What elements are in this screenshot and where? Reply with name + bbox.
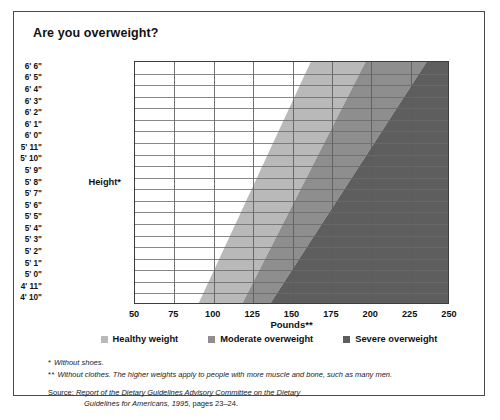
gridline-vertical xyxy=(253,62,254,303)
x-axis-tick-label: 75 xyxy=(153,309,193,319)
y-axis-tick-label: 6' 1" xyxy=(0,120,42,129)
gridline-horizontal xyxy=(135,166,448,167)
source-citation: Source: Report of the Dietary Guidelines… xyxy=(48,387,464,410)
y-axis-tick-label: 4' 11" xyxy=(0,282,42,291)
gridline-horizontal xyxy=(135,259,448,260)
footnote-text: Without clothes. The higher weights appl… xyxy=(57,370,392,379)
x-axis-tick-label: 50 xyxy=(114,309,154,319)
legend-swatch-icon xyxy=(101,336,108,343)
gridline-horizontal xyxy=(135,155,448,156)
y-axis-tick-label: 5' 5" xyxy=(0,212,42,221)
y-axis-tick-label: 5' 3" xyxy=(0,235,42,244)
footnote: ** Without clothes. The higher weights a… xyxy=(48,369,462,381)
gridline-vertical xyxy=(214,62,215,303)
weight-band-areas xyxy=(135,62,448,303)
source-label: Source: xyxy=(48,388,74,397)
y-axis-tick-label: 5' 2" xyxy=(0,247,42,256)
page-title: Are you overweight? xyxy=(33,26,159,40)
x-axis-title: Pounds** xyxy=(134,319,449,330)
y-axis-tick-label: 4' 10" xyxy=(0,293,42,302)
gridline-horizontal xyxy=(135,224,448,225)
x-axis-tick-label: 225 xyxy=(390,309,430,319)
gridline-horizontal xyxy=(135,270,448,271)
legend-item: Healthy weight xyxy=(101,334,179,344)
y-axis-tick-label: 5' 7" xyxy=(0,189,42,198)
gridline-vertical xyxy=(332,62,333,303)
footnote-text: Without shoes. xyxy=(54,358,104,367)
legend-label: Moderate overweight xyxy=(220,334,313,344)
gridline-horizontal xyxy=(135,293,448,294)
gridline-vertical xyxy=(293,62,294,303)
gridline-horizontal xyxy=(135,85,448,86)
legend-swatch-icon xyxy=(343,336,350,343)
y-axis-title: Height* xyxy=(59,177,121,187)
gridline-horizontal xyxy=(135,74,448,75)
source-title-italic: Guidelines for Americans, 1995 xyxy=(84,399,188,408)
x-axis-tick-label: 100 xyxy=(193,309,233,319)
chart-panel: Are you overweight? Height* Pounds** Hea… xyxy=(13,11,485,396)
x-axis-tick-label: 175 xyxy=(311,309,351,319)
y-axis-tick-label: 6' 6" xyxy=(0,62,42,71)
y-axis-tick-label: 5' 4" xyxy=(0,224,42,233)
plot-canvas xyxy=(134,61,449,304)
x-axis-tick-label: 125 xyxy=(232,309,272,319)
y-axis-tick-label: 6' 0" xyxy=(0,131,42,140)
gridline-horizontal xyxy=(135,247,448,248)
gridline-horizontal xyxy=(135,236,448,237)
gridline-horizontal xyxy=(135,108,448,109)
gridline-horizontal xyxy=(135,212,448,213)
y-axis-tick-label: 5' 6" xyxy=(0,201,42,210)
x-axis-tick-label: 250 xyxy=(429,309,469,319)
gridline-horizontal xyxy=(135,143,448,144)
y-axis-tick-label: 5' 0" xyxy=(0,270,42,279)
gridline-horizontal xyxy=(135,97,448,98)
y-axis-tick-label: 6' 4" xyxy=(0,85,42,94)
y-axis-tick-label: 6' 3" xyxy=(0,97,42,106)
source-title-line2: Guidelines for Americans, 1995, pages 23… xyxy=(48,398,464,409)
source-title-line1: Report of the Dietary Guidelines Advisor… xyxy=(76,388,300,397)
plot-area xyxy=(134,61,449,304)
legend-swatch-icon xyxy=(208,336,215,343)
y-axis-tick-label: 6' 2" xyxy=(0,108,42,117)
y-axis-tick-label: 6' 5" xyxy=(0,73,42,82)
footnote-marker: ** xyxy=(48,370,57,379)
gridline-horizontal xyxy=(135,131,448,132)
gridline-vertical xyxy=(411,62,412,303)
gridline-horizontal xyxy=(135,201,448,202)
y-axis-tick-label: 5' 8" xyxy=(0,178,42,187)
gridline-horizontal xyxy=(135,120,448,121)
x-axis-tick-label: 200 xyxy=(350,309,390,319)
y-axis-tick-label: 5' 11" xyxy=(0,143,42,152)
source-pages: , pages 23–24. xyxy=(188,399,238,408)
gridline-horizontal xyxy=(135,189,448,190)
gridline-vertical xyxy=(371,62,372,303)
gridline-horizontal xyxy=(135,178,448,179)
y-axis-tick-label: 5' 10" xyxy=(0,154,42,163)
y-axis-tick-label: 5' 9" xyxy=(0,166,42,175)
footnotes: * Without shoes.** Without clothes. The … xyxy=(48,357,462,381)
legend-label: Severe overweight xyxy=(355,334,437,344)
footnote: * Without shoes. xyxy=(48,357,462,369)
x-axis-tick-label: 150 xyxy=(272,309,312,319)
y-axis-tick-label: 5' 1" xyxy=(0,259,42,268)
gridline-vertical xyxy=(174,62,175,303)
chart-legend: Healthy weightModerate overweightSevere … xyxy=(74,334,464,344)
legend-item: Moderate overweight xyxy=(208,334,313,344)
legend-item: Severe overweight xyxy=(343,334,437,344)
gridline-horizontal xyxy=(135,282,448,283)
legend-label: Healthy weight xyxy=(113,334,179,344)
